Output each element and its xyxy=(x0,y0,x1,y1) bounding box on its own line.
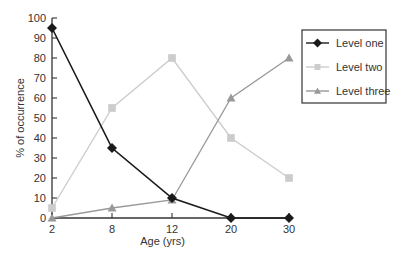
x-tick-label: 20 xyxy=(225,223,237,235)
triangle-marker-icon xyxy=(285,54,294,62)
y-tick-label: 70 xyxy=(34,72,46,84)
square-marker-icon xyxy=(315,64,321,70)
series-line xyxy=(52,58,289,218)
square-marker-icon xyxy=(285,174,293,182)
diamond-marker-icon xyxy=(47,23,57,33)
legend-label: Level two xyxy=(336,61,382,73)
y-tick-label: 90 xyxy=(34,32,46,44)
y-tick-label: 20 xyxy=(34,172,46,184)
line-chart: 010203040506070809010028122030Age (yrs)%… xyxy=(0,0,409,261)
x-tick-label: 12 xyxy=(166,223,178,235)
y-tick-label: 0 xyxy=(40,212,46,224)
square-marker-icon xyxy=(168,54,176,62)
y-tick-label: 10 xyxy=(34,192,46,204)
diamond-marker-icon xyxy=(284,213,294,223)
y-tick-label: 60 xyxy=(34,92,46,104)
series-layer xyxy=(47,23,294,223)
chart-canvas: 010203040506070809010028122030Age (yrs)%… xyxy=(0,0,409,261)
square-marker-icon xyxy=(108,104,116,112)
legend-item: Level one xyxy=(306,37,384,49)
x-tick-label: 8 xyxy=(109,223,115,235)
y-tick-label: 50 xyxy=(34,112,46,124)
x-tick-label: 30 xyxy=(283,223,295,235)
triangle-marker-icon xyxy=(227,94,236,102)
axes: 010203040506070809010028122030Age (yrs)%… xyxy=(14,12,295,247)
series-line xyxy=(52,58,289,208)
square-marker-icon xyxy=(227,134,235,142)
y-axis-title: % of occurrence xyxy=(14,78,26,157)
x-tick-label: 2 xyxy=(49,223,55,235)
square-marker-icon xyxy=(48,204,56,212)
legend-label: Level one xyxy=(336,37,384,49)
y-tick-label: 80 xyxy=(34,52,46,64)
legend-label: Level three xyxy=(336,85,390,97)
y-tick-label: 30 xyxy=(34,152,46,164)
series-level-one xyxy=(47,23,294,223)
diamond-marker-icon xyxy=(226,213,236,223)
legend: Level oneLevel twoLevel three xyxy=(302,30,390,103)
x-axis-title: Age (yrs) xyxy=(140,235,185,247)
series-level-two xyxy=(48,54,293,212)
y-tick-label: 100 xyxy=(28,12,46,24)
y-tick-label: 40 xyxy=(34,132,46,144)
